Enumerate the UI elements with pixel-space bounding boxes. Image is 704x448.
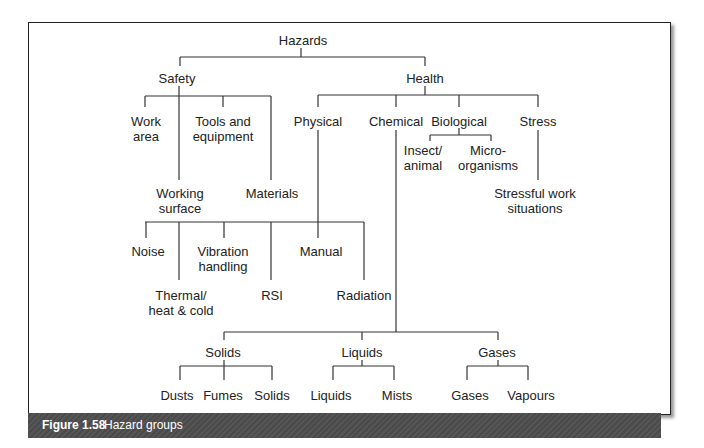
- node-gases: Gases: [478, 345, 516, 360]
- node-rsi: RSI: [261, 288, 283, 303]
- figure-title: Hazard groups: [104, 418, 183, 432]
- node-stressful: Stressful worksituations: [494, 186, 576, 216]
- node-tools: Tools andequipment: [193, 114, 254, 144]
- node-biological: Biological: [431, 114, 487, 129]
- node-chemical: Chemical: [369, 114, 423, 129]
- node-materials: Materials: [246, 186, 299, 201]
- figure-caption-bar: Figure 1.58 Hazard groups: [28, 413, 661, 438]
- node-working-surface: Workingsurface: [156, 186, 203, 216]
- node-stress: Stress: [520, 114, 557, 129]
- node-hazards: Hazards: [279, 33, 327, 48]
- node-fumes: Fumes: [203, 388, 243, 403]
- node-noise: Noise: [131, 244, 164, 259]
- node-vibration: Vibrationhandling: [197, 244, 248, 274]
- node-liquids2: Liquids: [310, 388, 351, 403]
- node-solids2: Solids: [254, 388, 289, 403]
- node-insect: Insect/animal: [404, 143, 442, 173]
- node-radiation: Radiation: [337, 288, 392, 303]
- node-work-area: Workarea: [131, 114, 161, 144]
- node-gases2: Gases: [451, 388, 489, 403]
- node-liquids: Liquids: [341, 345, 382, 360]
- node-mists: Mists: [382, 388, 412, 403]
- node-health: Health: [406, 71, 444, 86]
- node-physical: Physical: [294, 114, 342, 129]
- node-vapours: Vapours: [507, 388, 554, 403]
- node-thermal: Thermal/heat & cold: [148, 288, 213, 318]
- node-solids: Solids: [205, 345, 240, 360]
- node-dusts: Dusts: [160, 388, 193, 403]
- node-micro: Micro-organisms: [458, 143, 518, 173]
- node-manual: Manual: [300, 244, 343, 259]
- node-safety: Safety: [159, 71, 196, 86]
- figure-label: Figure 1.58: [42, 418, 105, 432]
- tree-connectors: [0, 0, 704, 448]
